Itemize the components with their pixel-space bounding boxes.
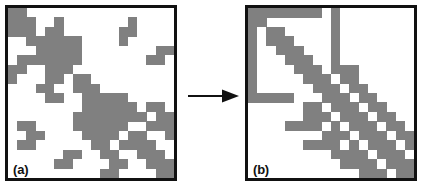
- panel-label-a: (a): [13, 163, 28, 176]
- matrix-cell: [100, 131, 109, 141]
- matrix-cell: [26, 140, 35, 150]
- matrix-cell: [285, 121, 294, 131]
- matrix-cell: [36, 46, 45, 56]
- matrix-cell: [63, 46, 72, 56]
- matrix-cell: [405, 169, 414, 178]
- matrix-cell: [349, 159, 358, 169]
- matrix-cell: [165, 121, 174, 131]
- matrix-cell: [386, 112, 395, 122]
- matrix-cell: [349, 112, 358, 122]
- matrix-cell: [156, 46, 165, 56]
- matrix-cell: [54, 93, 63, 103]
- matrix-cell: [303, 112, 312, 122]
- matrix-cell: [257, 8, 266, 18]
- matrix-cell: [109, 93, 118, 103]
- matrix-cell: [17, 27, 26, 37]
- matrix-cell: [156, 150, 165, 160]
- matrix-cell: [54, 159, 63, 169]
- matrix-cell: [109, 131, 118, 141]
- matrix-cell: [313, 74, 322, 84]
- matrix-cell: [368, 159, 377, 169]
- matrix-cell: [100, 169, 109, 178]
- matrix-cell: [303, 140, 312, 150]
- matrix-cell: [386, 121, 395, 131]
- matrix-cell: [349, 65, 358, 75]
- matrix-cell: [349, 121, 358, 131]
- matrix-cell: [91, 112, 100, 122]
- matrix-cell: [82, 121, 91, 131]
- matrix-cell: [294, 8, 303, 18]
- matrix-cell: [63, 150, 72, 160]
- matrix-cell: [26, 131, 35, 141]
- matrix-cell: [146, 140, 155, 150]
- matrix-cell: [109, 121, 118, 131]
- matrix-cell: [349, 84, 358, 94]
- matrix-cell: [313, 8, 322, 18]
- right-arrow-icon: [188, 88, 240, 104]
- matrix-cell: [119, 121, 128, 131]
- matrix-cell: [45, 36, 54, 46]
- matrix-cell: [248, 27, 257, 37]
- matrix-cell: [165, 46, 174, 56]
- matrix-cell: [82, 93, 91, 103]
- matrix-cell: [63, 55, 72, 65]
- matrix-cell: [119, 140, 128, 150]
- matrix-cell: [248, 8, 257, 18]
- matrix-cell: [36, 131, 45, 141]
- matrix-cell: [248, 84, 257, 94]
- matrix-cell: [45, 55, 54, 65]
- matrix-cell: [17, 121, 26, 131]
- matrix-cell: [285, 46, 294, 56]
- matrix-cell: [128, 27, 137, 37]
- matrix-cell: [322, 93, 331, 103]
- matrix-cell: [8, 8, 17, 18]
- matrix-cell: [368, 169, 377, 178]
- matrix-cell: [54, 17, 63, 27]
- matrix-cell: [17, 8, 26, 18]
- matrix-cell: [8, 65, 17, 75]
- matrix-cell: [248, 74, 257, 84]
- matrix-cell: [119, 112, 128, 122]
- matrix-cell: [359, 121, 368, 131]
- matrix-cell: [386, 140, 395, 150]
- matrix-cell: [396, 159, 405, 169]
- matrix-cell: [36, 55, 45, 65]
- matrix-cell: [248, 17, 257, 27]
- matrix-cell: [386, 159, 395, 169]
- matrix-cell: [146, 121, 155, 131]
- matrix-cell: [276, 46, 285, 56]
- matrix-cell: [137, 140, 146, 150]
- matrix-cell: [266, 8, 275, 18]
- matrix-cell: [303, 74, 312, 84]
- matrix-panel-b: (b): [245, 5, 417, 181]
- matrix-cell: [331, 17, 340, 27]
- matrix-cell: [73, 36, 82, 46]
- matrix-cell: [109, 159, 118, 169]
- matrix-cell: [276, 8, 285, 18]
- matrix-cell: [248, 36, 257, 46]
- matrix-cell: [331, 140, 340, 150]
- matrix-cell: [257, 17, 266, 27]
- matrix-cell: [377, 131, 386, 141]
- matrix-cell: [285, 93, 294, 103]
- matrix-cell: [128, 102, 137, 112]
- matrix-cell: [331, 8, 340, 18]
- matrix-cell: [8, 74, 17, 84]
- matrix-cell: [405, 159, 414, 169]
- matrix-cell: [322, 112, 331, 122]
- matrix-cell: [17, 65, 26, 75]
- matrix-cell: [156, 112, 165, 122]
- matrix-cell: [377, 169, 386, 178]
- matrix-cell: [266, 27, 275, 37]
- matrix-cell: [109, 102, 118, 112]
- matrix-cell: [294, 65, 303, 75]
- matrix-cell: [63, 36, 72, 46]
- matrix-cell: [285, 36, 294, 46]
- matrix-cell: [303, 8, 312, 18]
- matrix-cell: [119, 36, 128, 46]
- matrix-cell: [54, 65, 63, 75]
- matrix-cell: [340, 131, 349, 141]
- matrix-cell: [63, 159, 72, 169]
- matrix-cell: [248, 93, 257, 103]
- matrix-cell: [349, 150, 358, 160]
